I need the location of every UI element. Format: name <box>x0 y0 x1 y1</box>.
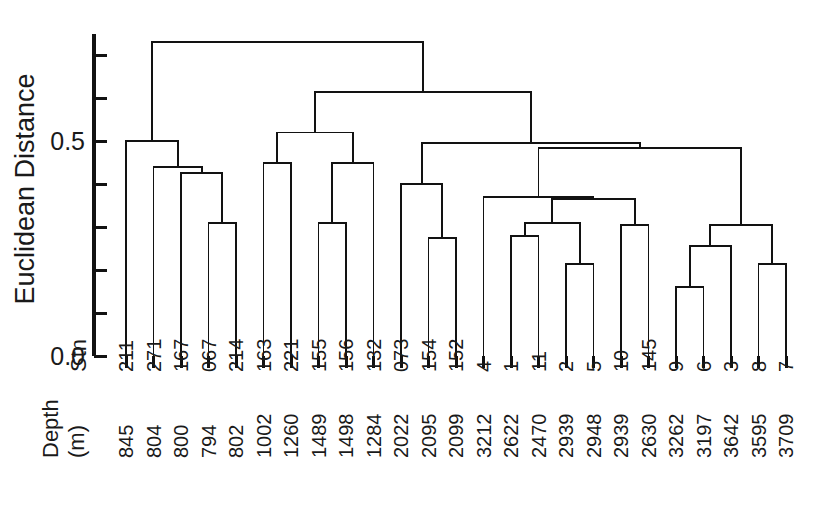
leaf-depth-label: 845 <box>115 425 137 458</box>
leaf-depth-label: 800 <box>170 425 192 458</box>
row-header-station: Stn <box>66 339 91 372</box>
leaf-depth-label: 2470 <box>528 414 550 459</box>
leaf-depth-label: 804 <box>143 425 165 458</box>
leaf-station-label: 3 <box>720 361 742 372</box>
leaf-depth-label: 3197 <box>693 414 715 459</box>
leaf-depth-label: 1260 <box>280 414 302 459</box>
leaf-station-label: 145 <box>638 339 660 372</box>
leaf-station-label: 6 <box>693 361 715 372</box>
leaf-station-label: 4 <box>473 361 495 372</box>
y-axis-title: Euclidean Distance <box>10 73 40 304</box>
leaf-depth-label: 1002 <box>253 414 275 459</box>
row-header-depth-unit: (m) <box>64 425 89 458</box>
leaf-station-label: 7 <box>775 361 797 372</box>
leaf-depth-label: 2939 <box>610 414 632 459</box>
row-header-depth: Depth <box>38 399 63 458</box>
leaf-station-label: 167 <box>170 339 192 372</box>
leaf-station-label: 073 <box>390 339 412 372</box>
leaf-depth-label: 2939 <box>555 414 577 459</box>
leaf-depth-label: 1489 <box>308 414 330 459</box>
leaf-depth-label: 2022 <box>390 414 412 459</box>
leaf-station-label: 156 <box>335 339 357 372</box>
leaf-station-label: 154 <box>418 339 440 372</box>
leaf-depth-label: 794 <box>198 425 220 458</box>
leaf-station-label: 2 <box>555 361 577 372</box>
dendrogram-figure: 0.00.5Euclidean DistanceStnDepth(m)21184… <box>0 0 817 528</box>
leaf-depth-label: 3642 <box>720 414 742 459</box>
leaf-station-label: 5 <box>583 361 605 372</box>
leaf-station-label: 221 <box>280 339 302 372</box>
leaf-station-label: 8 <box>748 361 770 372</box>
leaf-depth-label: 3709 <box>775 414 797 459</box>
leaf-station-label: 067 <box>198 339 220 372</box>
leaf-depth-label: 802 <box>225 425 247 458</box>
leaf-depth-label: 3262 <box>665 414 687 459</box>
leaf-station-label: 211 <box>115 340 137 372</box>
leaf-station-label: 10 <box>610 350 632 372</box>
dendrogram-plot: 0.00.5Euclidean DistanceStnDepth(m)21184… <box>0 0 817 528</box>
leaf-depth-label: 1284 <box>363 414 385 459</box>
leaf-station-label: 214 <box>225 339 247 372</box>
leaf-station-label: 11 <box>528 351 550 372</box>
y-axis-tick-label: 0.5 <box>50 127 85 155</box>
leaf-depth-label: 2095 <box>418 414 440 459</box>
leaf-station-label: 152 <box>445 339 467 372</box>
leaf-station-label: 1 <box>500 361 522 372</box>
leaf-depth-label: 3595 <box>748 414 770 459</box>
leaf-depth-label: 3212 <box>473 414 495 459</box>
leaf-depth-label: 1498 <box>335 414 357 459</box>
leaf-station-label: 271 <box>143 339 165 372</box>
leaf-depth-label: 2099 <box>445 414 467 459</box>
leaf-depth-label: 2948 <box>583 414 605 459</box>
leaf-depth-label: 2622 <box>500 414 522 459</box>
leaf-station-label: 155 <box>308 339 330 372</box>
leaf-station-label: 132 <box>363 339 385 372</box>
leaf-station-label: 163 <box>253 339 275 372</box>
leaf-station-label: 9 <box>665 361 687 372</box>
leaf-depth-label: 2630 <box>638 414 660 459</box>
